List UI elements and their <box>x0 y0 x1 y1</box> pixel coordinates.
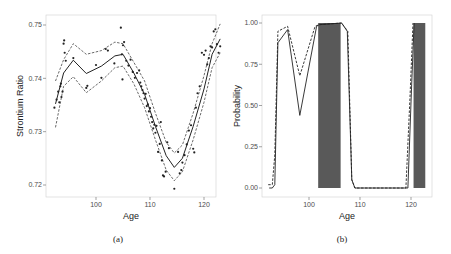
data-point <box>144 98 146 100</box>
data-point <box>140 85 142 87</box>
data-point <box>121 78 123 80</box>
data-point <box>148 110 150 112</box>
x-tick-label: 120 <box>198 201 210 208</box>
data-point <box>190 124 192 126</box>
x-tick-label: 100 <box>90 201 102 208</box>
data-point <box>168 147 170 149</box>
shaded-region <box>318 23 340 188</box>
data-point <box>65 60 67 62</box>
y-tick-label: 0.72 <box>28 181 42 188</box>
data-point <box>113 62 115 64</box>
panel-b: 0.000.250.500.751.00 100110120 Age Proba… <box>232 15 432 244</box>
data-point <box>60 96 62 98</box>
data-point <box>129 59 131 61</box>
y-tick-label: 0.73 <box>28 128 42 135</box>
data-point <box>142 92 144 94</box>
panel-a-y-ticks: 0.720.730.740.75 <box>28 21 46 188</box>
panel-b-x-ticks: 100110120 <box>303 197 417 208</box>
data-point <box>57 91 59 93</box>
panel-b-y-ticks: 0.000.250.500.751.00 <box>244 19 262 191</box>
data-point <box>161 159 163 161</box>
data-point <box>153 124 155 126</box>
data-point <box>147 103 149 105</box>
panel-b-y-label: Probability <box>232 84 242 127</box>
y-tick-label: 0.25 <box>244 143 258 150</box>
data-point <box>141 89 143 91</box>
data-point <box>186 143 188 145</box>
data-point <box>195 107 197 109</box>
data-point <box>95 64 97 66</box>
panel-a: 0.720.730.740.75 100110120 Age Strontium… <box>15 15 221 244</box>
panel-a-frame <box>46 15 216 197</box>
data-point <box>85 87 87 89</box>
data-point <box>149 107 151 109</box>
data-point <box>213 30 215 32</box>
data-point <box>105 48 107 50</box>
y-tick-label: 1.00 <box>244 19 258 26</box>
data-point <box>123 41 125 43</box>
panel-a-x-ticks: 100110120 <box>90 197 210 208</box>
panel-a-caption: (a) <box>113 234 123 244</box>
data-point <box>136 72 138 74</box>
data-point <box>157 151 159 153</box>
data-point <box>121 53 123 55</box>
data-point <box>59 85 61 87</box>
data-point <box>183 154 185 156</box>
data-point <box>165 171 167 173</box>
data-point <box>206 63 208 65</box>
data-point <box>61 91 63 93</box>
data-point <box>64 52 66 54</box>
shaded-region <box>414 23 426 188</box>
data-point <box>152 127 154 129</box>
y-tick-label: 0.00 <box>244 184 258 191</box>
x-tick-label: 110 <box>144 201 155 208</box>
data-point <box>173 188 175 190</box>
figure: 0.720.730.740.75 100110120 Age Strontium… <box>0 0 451 254</box>
data-point <box>179 172 181 174</box>
data-point <box>205 50 207 52</box>
data-point <box>211 46 213 48</box>
data-point <box>217 52 219 54</box>
data-point <box>100 77 102 79</box>
y-tick-label: 0.75 <box>244 61 258 68</box>
data-point <box>159 143 161 145</box>
panel-a-x-label: Age <box>123 211 139 221</box>
data-point <box>163 175 165 177</box>
data-point <box>216 43 218 45</box>
data-point <box>86 85 88 87</box>
data-point <box>139 82 141 84</box>
data-point <box>58 101 60 103</box>
y-tick-label: 0.75 <box>28 21 42 28</box>
data-point <box>193 151 195 153</box>
panel-a-y-label: Strontium Ratio <box>15 75 25 137</box>
data-point <box>134 77 136 79</box>
y-tick-label: 0.50 <box>244 102 258 109</box>
data-point <box>188 130 190 132</box>
data-point <box>53 107 55 109</box>
data-point <box>201 52 203 54</box>
panel-b-frame <box>262 15 432 197</box>
data-point <box>125 60 127 62</box>
data-point <box>55 99 57 101</box>
data-point <box>208 57 210 59</box>
data-point <box>180 169 182 171</box>
data-point <box>60 83 62 85</box>
data-point <box>196 92 198 94</box>
panel-b-x-label: Age <box>339 211 355 221</box>
data-point <box>199 85 201 87</box>
data-point <box>122 44 124 46</box>
data-point <box>120 27 122 29</box>
data-point <box>138 69 140 71</box>
x-tick-label: 100 <box>303 201 315 208</box>
data-point <box>145 93 147 95</box>
data-point <box>192 148 194 150</box>
data-point <box>107 50 109 52</box>
data-point <box>72 57 74 59</box>
data-point <box>154 132 156 134</box>
data-point <box>132 71 134 73</box>
data-point <box>150 116 152 118</box>
data-point <box>181 162 183 164</box>
data-point <box>155 125 157 127</box>
data-point <box>203 54 205 56</box>
data-point <box>219 45 221 47</box>
